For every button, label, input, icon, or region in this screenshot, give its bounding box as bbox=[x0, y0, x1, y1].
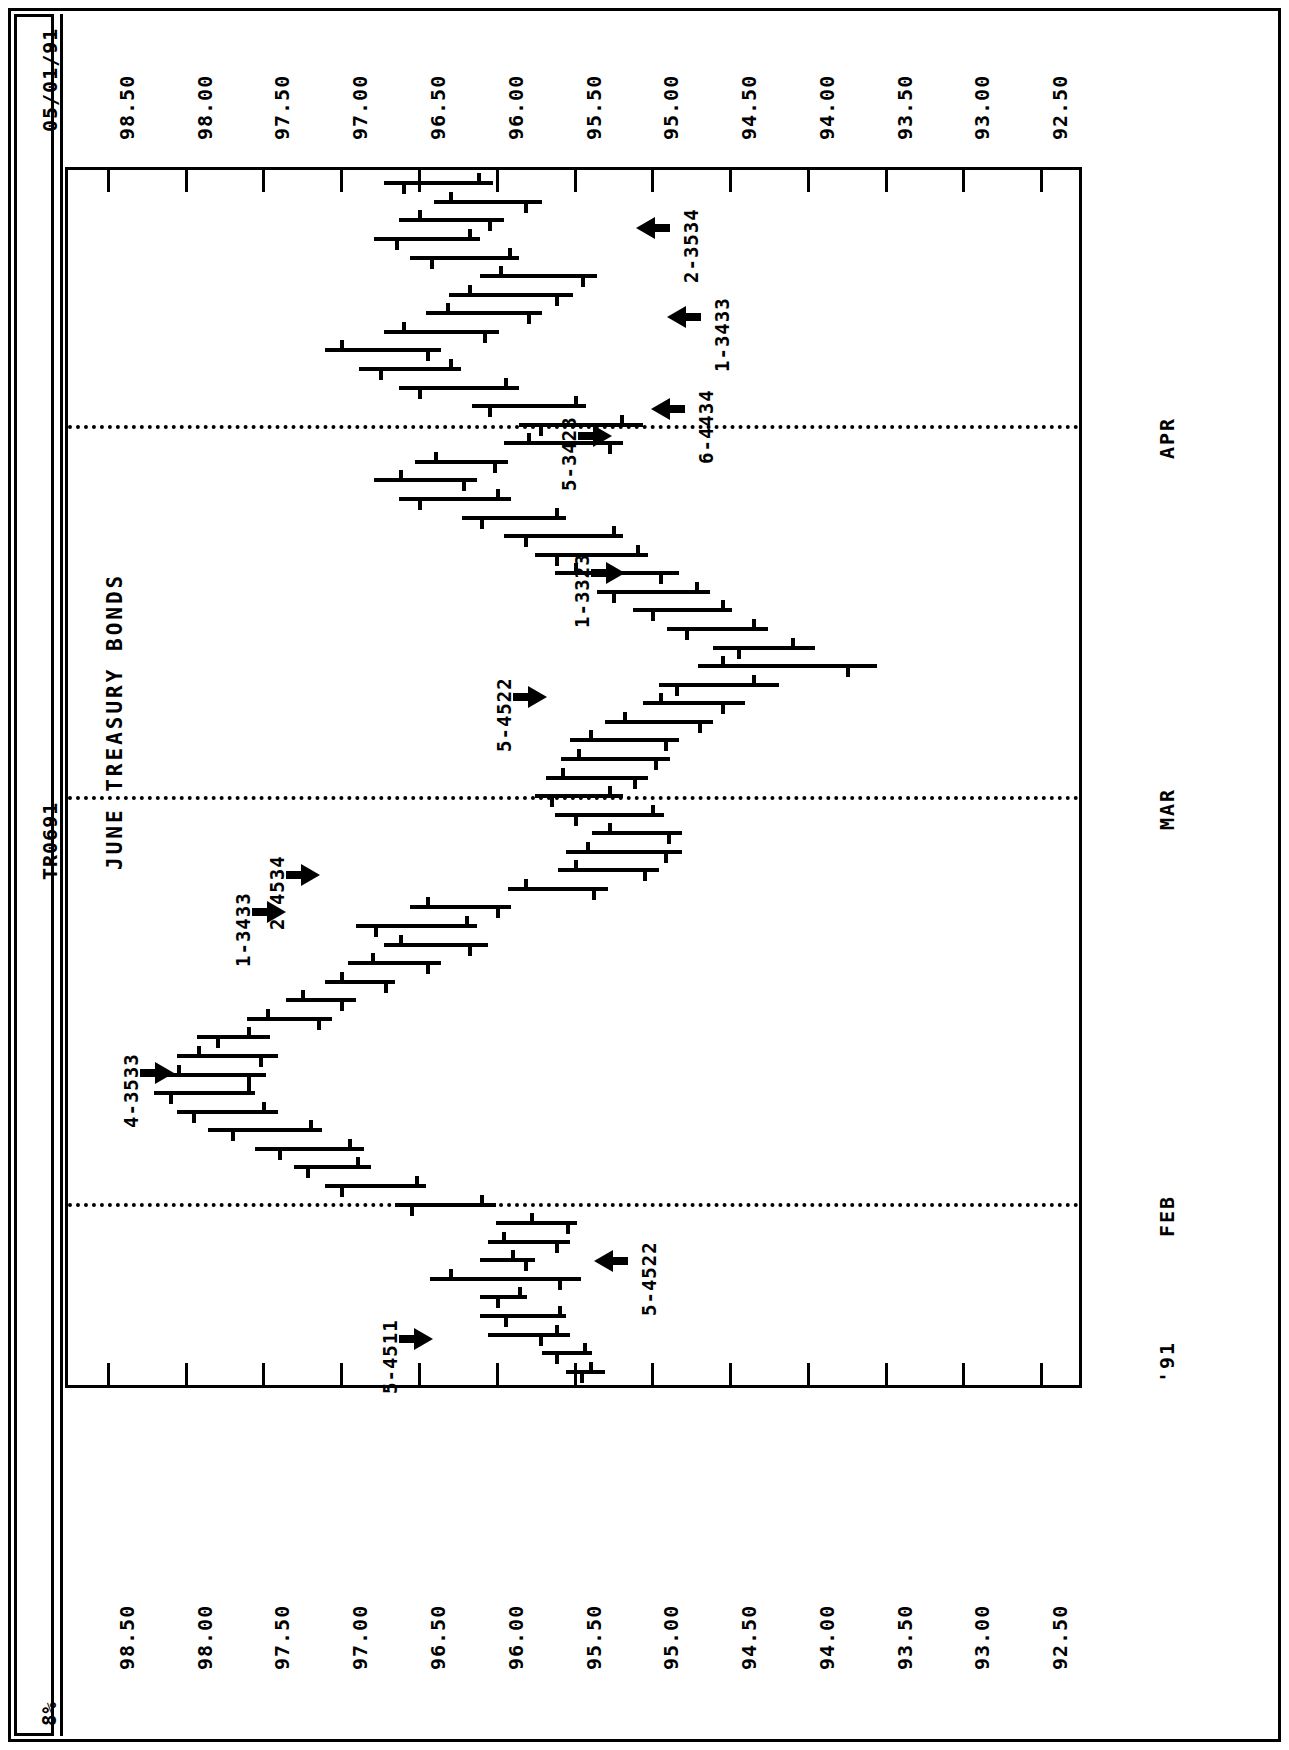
value-axis-tick-bottom: 95.50 bbox=[582, 1605, 606, 1670]
ohlc-close-tick bbox=[580, 1374, 584, 1383]
tick-mark bbox=[574, 170, 577, 192]
tick-mark bbox=[262, 170, 265, 192]
tick-mark bbox=[262, 1363, 265, 1385]
signal-label: 5-4522 bbox=[638, 1241, 660, 1316]
ohlc-close-tick bbox=[643, 872, 647, 881]
ohlc-close-tick bbox=[480, 520, 484, 529]
ohlc-close-tick bbox=[496, 909, 500, 918]
ohlc-open-tick bbox=[402, 322, 406, 331]
ohlc-open-tick bbox=[636, 545, 640, 554]
value-axis-tick-bottom: 92.50 bbox=[1048, 1605, 1072, 1670]
value-axis-tick-bottom: 95.00 bbox=[659, 1605, 683, 1670]
arrow-right-icon bbox=[301, 864, 320, 886]
signal-label: 2-3534 bbox=[680, 209, 702, 284]
ohlc-close-tick bbox=[524, 204, 528, 213]
ohlc-close-tick bbox=[247, 1077, 251, 1086]
ohlc-close-tick bbox=[721, 705, 725, 714]
year-label: '91 bbox=[1155, 1341, 1179, 1383]
chart-title: JUNE TREASURY BONDS bbox=[103, 573, 127, 870]
ohlc-open-tick bbox=[558, 1306, 562, 1315]
ohlc-close-tick bbox=[259, 1058, 263, 1067]
ohlc-open-tick bbox=[418, 210, 422, 219]
ohlc-bar bbox=[566, 1370, 605, 1374]
tick-mark bbox=[418, 1363, 421, 1385]
value-axis-tick-top: 93.00 bbox=[970, 75, 994, 140]
page-mark: 8% bbox=[38, 1701, 60, 1726]
ohlc-close-tick bbox=[612, 594, 616, 603]
ohlc-open-tick bbox=[301, 990, 305, 999]
ohlc-close-tick bbox=[379, 371, 383, 380]
month-label: APR bbox=[1155, 417, 1179, 459]
ohlc-open-tick bbox=[468, 229, 472, 238]
ohlc-open-tick bbox=[502, 1232, 506, 1241]
tick-mark bbox=[185, 170, 188, 192]
ohlc-close-tick bbox=[430, 260, 434, 269]
ohlc-close-tick bbox=[550, 798, 554, 807]
ohlc-close-tick bbox=[340, 1188, 344, 1197]
ohlc-open-tick bbox=[695, 582, 699, 591]
ohlc-open-tick bbox=[247, 1027, 251, 1036]
arrow-stem bbox=[612, 1257, 628, 1265]
tick-mark bbox=[651, 1363, 654, 1385]
ohlc-close-tick bbox=[555, 557, 559, 566]
ohlc-close-tick bbox=[410, 1207, 414, 1216]
value-axis-tick-top: 96.50 bbox=[426, 75, 450, 140]
signal-label: 5-4511 bbox=[379, 1319, 401, 1394]
value-axis-tick-top: 98.00 bbox=[193, 75, 217, 140]
ohlc-open-tick bbox=[612, 526, 616, 535]
ohlc-open-tick bbox=[721, 600, 725, 609]
ohlc-bar bbox=[208, 1128, 322, 1132]
value-axis-tick-bottom: 96.50 bbox=[426, 1605, 450, 1670]
ohlc-close-tick bbox=[493, 464, 497, 473]
arrow-stem bbox=[578, 432, 594, 440]
ohlc-open-tick bbox=[434, 452, 438, 461]
tick-mark bbox=[807, 170, 810, 192]
ohlc-open-tick bbox=[449, 192, 453, 201]
ohlc-close-tick bbox=[527, 315, 531, 324]
tick-mark bbox=[962, 170, 965, 192]
ohlc-open-tick bbox=[348, 1139, 352, 1148]
tick-mark bbox=[340, 170, 343, 192]
ohlc-bar bbox=[504, 534, 624, 538]
ohlc-close-tick bbox=[566, 1225, 570, 1234]
ohlc-close-tick bbox=[539, 1337, 543, 1346]
value-axis-tick-bottom: 94.00 bbox=[815, 1605, 839, 1670]
tick-mark bbox=[729, 170, 732, 192]
signal-label: 4-3533 bbox=[120, 1053, 142, 1128]
ohlc-bar bbox=[384, 330, 499, 334]
ohlc-open-tick bbox=[340, 972, 344, 981]
arrow-left-icon bbox=[636, 217, 655, 239]
ohlc-open-tick bbox=[659, 693, 663, 702]
arrow-right-icon bbox=[155, 1062, 174, 1084]
tick-mark bbox=[107, 170, 110, 192]
ohlc-open-tick bbox=[589, 730, 593, 739]
ohlc-bar bbox=[410, 256, 519, 260]
ohlc-close-tick bbox=[592, 891, 596, 900]
value-axis-tick-bottom: 93.00 bbox=[970, 1605, 994, 1670]
ohlc-open-tick bbox=[504, 378, 508, 387]
tick-mark bbox=[729, 1363, 732, 1385]
ohlc-open-tick bbox=[752, 619, 756, 628]
ohlc-open-tick bbox=[340, 340, 344, 349]
ohlc-open-tick bbox=[651, 805, 655, 814]
arrow-left-icon bbox=[651, 398, 670, 420]
report-page: 05/01/91 TR0691 8% 98.5098.0097.5097.009… bbox=[0, 0, 1289, 1750]
ohlc-close-tick bbox=[574, 817, 578, 826]
chart-plot-inner: 5-45115-45224-35331-34332-45345-45221-33… bbox=[68, 170, 1079, 1385]
ohlc-open-tick bbox=[561, 768, 565, 777]
value-axis-tick-bottom: 94.50 bbox=[737, 1605, 761, 1670]
ohlc-close-tick bbox=[395, 241, 399, 250]
ohlc-close-tick bbox=[169, 1095, 173, 1104]
tick-mark bbox=[574, 1363, 577, 1385]
ohlc-open-tick bbox=[465, 916, 469, 925]
value-axis-tick-bottom: 97.50 bbox=[270, 1605, 294, 1670]
ohlc-close-tick bbox=[664, 742, 668, 751]
arrow-stem bbox=[513, 693, 529, 701]
signal-label: 2-4534 bbox=[266, 855, 288, 930]
value-axis-tick-top: 92.50 bbox=[1048, 75, 1072, 140]
ohlc-close-tick bbox=[278, 1151, 282, 1160]
arrow-right-icon bbox=[528, 686, 547, 708]
ohlc-close-tick bbox=[524, 538, 528, 547]
ohlc-open-tick bbox=[511, 1250, 515, 1259]
ohlc-close-tick bbox=[496, 1299, 500, 1308]
